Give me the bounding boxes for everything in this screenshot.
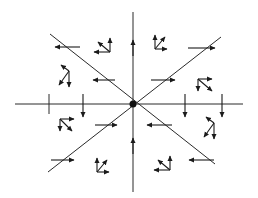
cluster-lower-right-down-vector-1-icon (158, 160, 170, 170)
cluster-lower-left (60, 119, 74, 131)
cluster-upper-left-inner (59, 65, 69, 87)
cluster-upper-left-outer-vector-1-icon (98, 42, 110, 52)
cluster-upper-up-left (155, 35, 167, 49)
cluster-lower-right-down (154, 156, 170, 170)
cluster-lower-right (204, 117, 214, 139)
origin-point (130, 101, 137, 108)
cluster-upper-right-vector-1-icon (198, 79, 212, 91)
cluster-upper-left-inner-vector-0-icon (59, 71, 69, 85)
cluster-upper-left-outer (94, 38, 110, 52)
cluster-lower-left-down (97, 158, 109, 172)
cluster-lower-right-vector-0-icon (204, 123, 214, 137)
cluster-upper-right (198, 79, 212, 91)
cluster-upper-left-inner-vector-1-icon (61, 65, 69, 71)
cluster-lower-right-vector-1-icon (206, 117, 214, 123)
cluster-lower-left-vector-1-icon (60, 119, 72, 131)
cluster-upper-up-left-vector-1-icon (155, 37, 165, 49)
cluster-lower-left-down-vector-1-icon (97, 160, 107, 172)
vector-field-diagram (0, 0, 258, 198)
